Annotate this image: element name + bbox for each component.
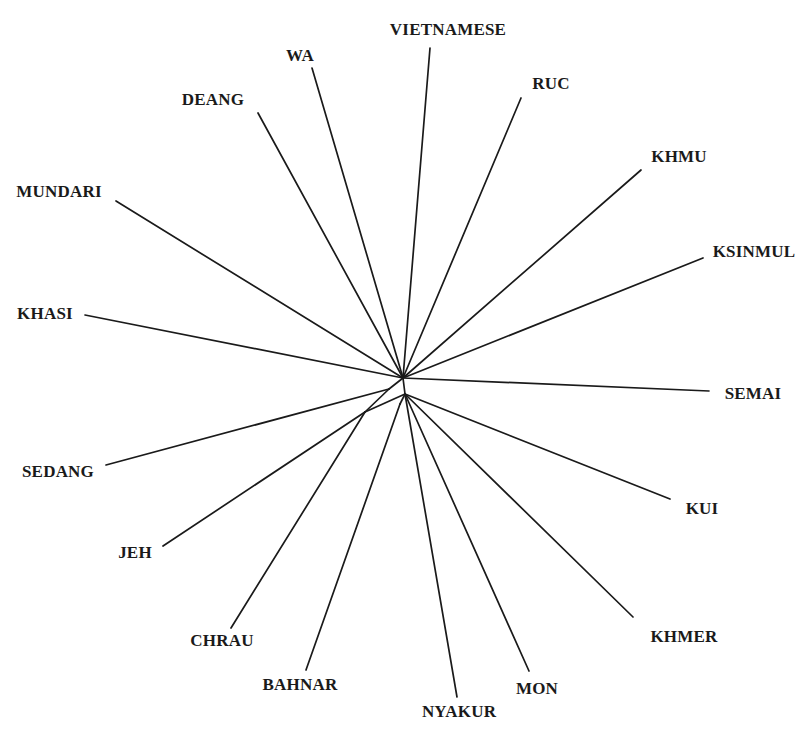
taxon-label: KHASI	[17, 305, 73, 323]
taxon-label: JEH	[118, 544, 152, 562]
taxon-label: KUI	[686, 500, 719, 518]
taxon-label: SEDANG	[22, 463, 94, 481]
taxon-label: DEANG	[182, 91, 244, 109]
taxon-label: KHMU	[651, 148, 707, 166]
taxon-label: NYAKUR	[422, 703, 496, 721]
taxon-label: MON	[516, 680, 558, 698]
taxon-label: BAHNAR	[263, 676, 338, 694]
taxon-label: KHMER	[650, 628, 717, 646]
taxon-label: VIETNAMESE	[390, 21, 506, 39]
taxon-label: RUC	[532, 75, 569, 93]
taxon-label: SEMAI	[725, 385, 782, 403]
figure-root: VIETNAMESEWARUCDEANGKHMUMUNDARIKSINMULKH…	[0, 0, 808, 741]
taxon-label: KSINMUL	[713, 243, 796, 261]
taxon-label: MUNDARI	[16, 183, 101, 201]
taxon-label: CHRAU	[190, 632, 253, 650]
taxon-label: WA	[286, 47, 314, 65]
